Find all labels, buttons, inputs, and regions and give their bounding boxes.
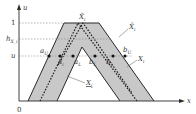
x-axis-arrow-icon <box>179 99 185 103</box>
label-b-u: bU <box>123 46 131 55</box>
fuzzy-membership-diagram: u x 0 1 hX_i u X̃i X̄i Xi Xi aU ai aL bL… <box>0 0 196 114</box>
principal-function-label: Xi <box>137 55 145 64</box>
tick-label-1: 1 <box>11 19 15 27</box>
point-b-u <box>123 54 126 57</box>
lower-label-leader <box>67 76 85 83</box>
type2-set-label: X̃i <box>78 12 86 22</box>
origin-label: 0 <box>17 106 21 114</box>
tick-label-u: u <box>11 52 16 60</box>
label-a-l: aL <box>74 58 81 67</box>
y-axis-arrow-icon <box>17 4 21 10</box>
upper-function-label: X̄i <box>128 22 136 32</box>
tick-label-h: hX_i <box>6 35 18 45</box>
x-axis-label: x <box>187 97 191 105</box>
principal-label-leader <box>127 60 137 67</box>
y-axis-label: u <box>23 4 28 12</box>
point-b-i <box>111 54 114 57</box>
label-a-u: aU <box>40 47 48 56</box>
point-b-l <box>93 54 96 57</box>
lower-function-label: Xi <box>85 79 93 88</box>
upper-label-leader <box>119 29 128 37</box>
